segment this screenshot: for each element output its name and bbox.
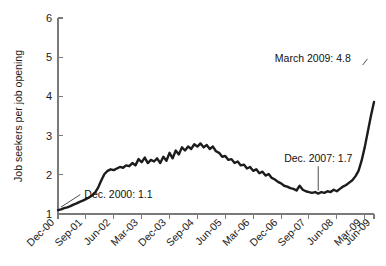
- annotation-label: Dec. 2000: 1.1: [84, 188, 152, 200]
- y-tick-label: 5: [46, 51, 52, 63]
- job-seekers-per-opening-chart: 123456 Dec-00Sep-01Jun-02Mar-03Dec-03Sep…: [0, 0, 386, 266]
- y-axis-title: Job seekers per job opening: [12, 50, 24, 182]
- y-tick-label: 6: [46, 12, 52, 24]
- y-tick-label: 2: [46, 169, 52, 181]
- y-tick-label: 3: [46, 130, 52, 142]
- y-tick-label: 4: [46, 90, 52, 102]
- annotation-label: Dec. 2007: 1.7: [284, 152, 352, 164]
- annotation-label: March 2009: 4.8: [275, 52, 351, 64]
- chart-container: 123456 Dec-00Sep-01Jun-02Mar-03Dec-03Sep…: [0, 0, 386, 266]
